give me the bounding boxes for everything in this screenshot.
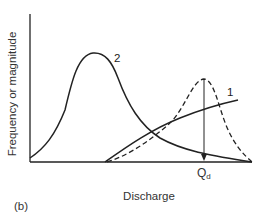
qd-arrow-head (201, 154, 207, 161)
qd-sub: d (206, 172, 210, 181)
chart-plot (0, 0, 267, 222)
curve-1 (105, 100, 238, 162)
x-axis-label: Discharge (123, 190, 175, 202)
curve-2 (30, 53, 252, 162)
y-axis-label: Frequency or magnitude (6, 32, 18, 157)
curve-2-label: 2 (114, 52, 120, 64)
qd-label: Qd (197, 166, 211, 181)
panel-label: (b) (14, 200, 28, 212)
figure: Frequency or magnitude Discharge (b) 2 1… (0, 0, 267, 222)
curve-1-label: 1 (227, 86, 233, 98)
qd-main: Q (197, 166, 206, 180)
